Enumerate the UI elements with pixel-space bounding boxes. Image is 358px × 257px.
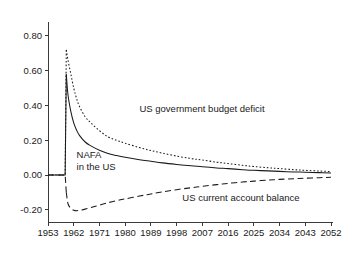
x-tick-label: 2043 — [295, 227, 316, 238]
y-tick-label: 0.00 — [24, 169, 43, 180]
x-tick-label: 2007 — [192, 227, 213, 238]
annotation-budget-deficit: US government budget deficit — [139, 103, 265, 114]
x-tick-label: 1998 — [166, 227, 187, 238]
x-tick-label: 2034 — [269, 227, 290, 238]
annotation-current-account: US current account balance — [182, 192, 299, 203]
annotation-nafa-line2: in the US — [77, 161, 116, 172]
series-line-dashed — [48, 175, 66, 192]
series-line-solid — [48, 74, 66, 175]
x-tick-label: 1953 — [37, 227, 58, 238]
y-tick-label: 0.60 — [24, 65, 43, 76]
y-tick-label: 0.40 — [24, 100, 43, 111]
series-line-solid — [66, 74, 331, 173]
y-tick-label: -0.20 — [20, 204, 42, 215]
series-layer — [48, 50, 331, 211]
x-tick-label: 1971 — [89, 227, 110, 238]
y-axis: -0.200.000.200.400.600.80 — [20, 22, 48, 222]
y-tick-label: 0.80 — [24, 30, 43, 41]
x-axis: 1953196219711980198919982007201620252034… — [37, 222, 341, 238]
annotation-nafa: NAFA — [77, 149, 102, 160]
series-line-dotted — [48, 50, 66, 175]
x-tick-label: 2052 — [320, 227, 341, 238]
line-chart: -0.200.000.200.400.600.80 19531962197119… — [0, 0, 358, 257]
x-tick-label: 1962 — [63, 227, 84, 238]
x-tick-label: 1980 — [115, 227, 136, 238]
x-tick-label: 2025 — [243, 227, 264, 238]
chart-figure: -0.200.000.200.400.600.80 19531962197119… — [0, 0, 358, 257]
x-tick-label: 1989 — [140, 227, 161, 238]
y-tick-label: 0.20 — [24, 135, 43, 146]
x-tick-label: 2016 — [218, 227, 239, 238]
